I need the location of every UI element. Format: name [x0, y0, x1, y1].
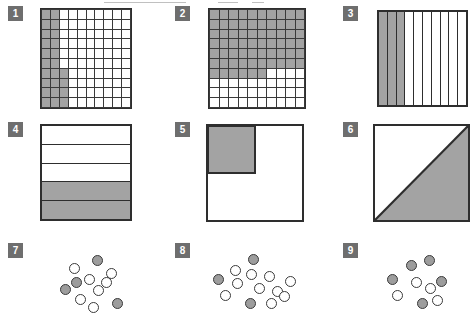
grid-cell-shaded	[51, 30, 59, 39]
strip-figure-3	[377, 10, 468, 107]
grid-cell-empty	[248, 88, 257, 97]
grid-cell-empty	[210, 98, 219, 107]
dot-shaded	[436, 276, 447, 287]
dot-shaded	[213, 274, 224, 285]
grid-cell-empty	[78, 20, 86, 29]
grid-cell-shaded	[267, 20, 276, 29]
grid-cell-empty	[69, 30, 77, 39]
grid-cell-empty	[113, 30, 121, 39]
grid-cell-shaded	[42, 88, 50, 97]
grid-cell-empty	[95, 20, 103, 29]
grid-cell-empty	[210, 88, 219, 97]
grid-cell-empty	[104, 79, 112, 88]
grid-cell-empty	[104, 98, 112, 107]
dot-shaded	[417, 298, 428, 309]
grid-cell-empty	[220, 88, 229, 97]
grid-cell-empty	[113, 69, 121, 78]
grid-cell-shaded	[239, 10, 248, 19]
dot-empty	[69, 263, 80, 274]
grid-cell-empty	[95, 39, 103, 48]
grid-cell-empty	[267, 69, 276, 78]
grid-cell-empty	[122, 88, 130, 97]
dot-empty	[411, 277, 422, 288]
grid-cell-empty	[286, 98, 295, 107]
grid-cell-shaded	[248, 30, 257, 39]
grid-cell-empty	[95, 88, 103, 97]
grid-cell-shaded	[286, 59, 295, 68]
dot-empty	[279, 291, 290, 302]
grid-cell-shaded	[229, 59, 238, 68]
grid-cell-shaded	[239, 20, 248, 29]
grid-cell-shaded	[51, 20, 59, 29]
grid-cell-shaded	[51, 98, 59, 107]
band-shaded	[42, 182, 130, 200]
grid-cell-empty	[104, 49, 112, 58]
grid-cell-shaded	[239, 30, 248, 39]
grid-cell-shaded	[51, 79, 59, 88]
panel-number-badge: 6	[343, 122, 358, 137]
panel-number-badge: 8	[175, 243, 190, 258]
grid-cell-shaded	[248, 69, 257, 78]
grid-cell-shaded	[210, 10, 219, 19]
grid-cell-shaded	[42, 10, 50, 19]
grid-cell-empty	[60, 59, 68, 68]
grid-cell-empty	[78, 30, 86, 39]
grid-cell-empty	[78, 98, 86, 107]
grid-cell-empty	[113, 10, 121, 19]
grid-cell-empty	[267, 88, 276, 97]
grid-cell-empty	[78, 39, 86, 48]
grid-cell-empty	[69, 88, 77, 97]
grid-cell-shaded	[210, 39, 219, 48]
dot-empty	[220, 290, 231, 301]
grid-cell-shaded	[277, 49, 286, 58]
grid-cell-empty	[113, 98, 121, 107]
grid-cell-empty	[239, 88, 248, 97]
grid-cell-empty	[113, 49, 121, 58]
grid-cell-shaded	[229, 30, 238, 39]
grid-cell-empty	[104, 10, 112, 19]
grid-cell-shaded	[258, 30, 267, 39]
grid-cell-empty	[286, 88, 295, 97]
grid-cell-shaded	[296, 39, 305, 48]
grid-cell-empty	[78, 10, 86, 19]
grid-cell-empty	[104, 59, 112, 68]
grid-cell-empty	[113, 88, 121, 97]
grid-cell-shaded	[42, 39, 50, 48]
dot-empty	[232, 278, 243, 289]
grid-cell-shaded	[267, 10, 276, 19]
grid-cell-shaded	[42, 59, 50, 68]
dot-cluster-7	[55, 250, 135, 316]
grid-cell-shaded	[60, 79, 68, 88]
grid-cell-shaded	[51, 69, 59, 78]
grid-cell-empty	[122, 10, 130, 19]
grid-cell-empty	[87, 69, 95, 78]
grid-cell-empty	[69, 59, 77, 68]
grid-cell-empty	[104, 69, 112, 78]
panel-number-badge: 7	[8, 243, 23, 258]
dot-empty	[425, 283, 436, 294]
strip-empty	[432, 12, 440, 105]
grid-cell-empty	[122, 39, 130, 48]
strip-empty	[458, 12, 466, 105]
grid-cell-empty	[258, 98, 267, 107]
grid-cell-shaded	[277, 10, 286, 19]
band-figure-4	[40, 124, 132, 221]
grid-cell-empty	[87, 59, 95, 68]
grid-cell-shaded	[229, 69, 238, 78]
grid-cell-empty	[78, 49, 86, 58]
grid-cell-empty	[78, 79, 86, 88]
dot-empty	[264, 271, 275, 282]
dot-shaded	[424, 255, 435, 266]
grid-cell-shaded	[239, 59, 248, 68]
grid-cell-shaded	[296, 30, 305, 39]
grid-cell-empty	[87, 79, 95, 88]
grid-cell-shaded	[51, 39, 59, 48]
grid-cell-shaded	[229, 10, 238, 19]
grid-cell-empty	[122, 79, 130, 88]
grid-cell-shaded	[220, 30, 229, 39]
scan-artifact	[104, 2, 186, 3]
grid-cell-empty	[122, 98, 130, 107]
grid-cell-shaded	[277, 59, 286, 68]
grid-cell-shaded	[42, 30, 50, 39]
grid-cell-empty	[95, 10, 103, 19]
